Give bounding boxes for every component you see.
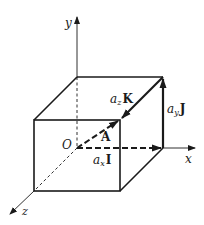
y-component-label: ayJ bbox=[167, 102, 186, 117]
resultant-label: A bbox=[100, 130, 111, 144]
z-axis-label: z bbox=[21, 205, 28, 218]
x-axis-label: x bbox=[185, 152, 192, 166]
z-component-label: azK bbox=[110, 92, 133, 107]
y-axis-label: y bbox=[64, 16, 72, 30]
hidden-edges bbox=[34, 77, 77, 191]
origin-label: O bbox=[62, 138, 72, 152]
vector-decomposition-diagram: y x z O A axI ayJ azK bbox=[0, 0, 204, 225]
x-component-label: axI bbox=[93, 153, 112, 168]
resultant-vector bbox=[77, 121, 118, 148]
box-edges bbox=[34, 77, 163, 191]
